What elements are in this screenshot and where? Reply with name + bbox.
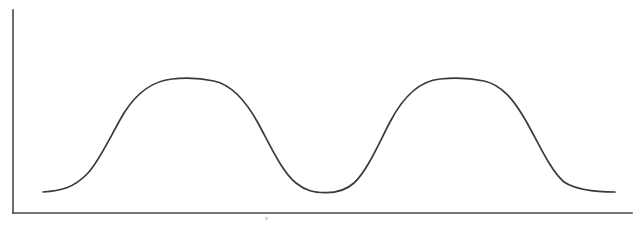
plot-canvas [0,0,637,229]
figure-root [0,0,637,229]
figure-background [0,0,637,229]
scan-artifact-speck [265,217,268,220]
